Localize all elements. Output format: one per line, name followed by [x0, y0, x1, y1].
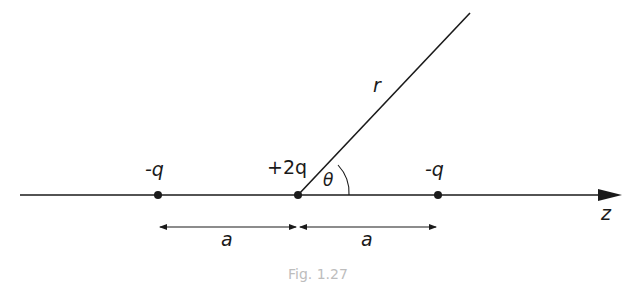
angle-label-theta: θ [323, 172, 333, 189]
radial-line-r [298, 13, 470, 195]
axis-label-z: z [601, 204, 611, 223]
figure-caption: Fig. 1.27 [288, 266, 348, 282]
radial-label-r: r [373, 76, 381, 95]
spacing-label-right: a [361, 230, 373, 249]
z-axis [20, 189, 622, 201]
charge-dot-right [434, 191, 442, 199]
charge-label-right: -q [425, 160, 444, 179]
axis-arrowhead-icon [598, 189, 622, 201]
theta-arc [338, 165, 349, 195]
spacing-label-left: a [221, 230, 233, 249]
charge-dot-center [294, 191, 302, 199]
charge-dot-left [154, 191, 162, 199]
charge-label-left: -q [145, 160, 164, 179]
charge-label-center: +2q [267, 158, 307, 177]
